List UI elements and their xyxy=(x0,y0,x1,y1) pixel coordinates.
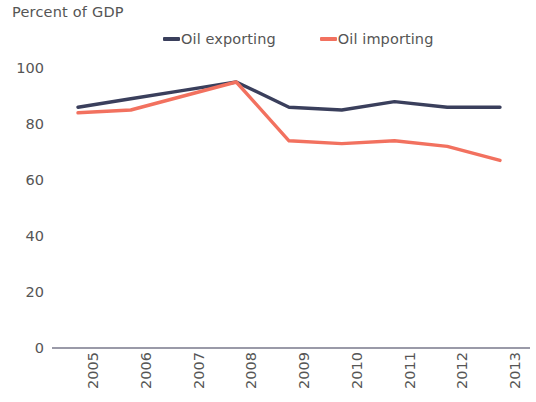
series-line-oil-importing xyxy=(78,82,500,160)
plot-area xyxy=(0,0,536,402)
chart-container: Percent of GDP Oil exporting Oil importi… xyxy=(0,0,536,402)
